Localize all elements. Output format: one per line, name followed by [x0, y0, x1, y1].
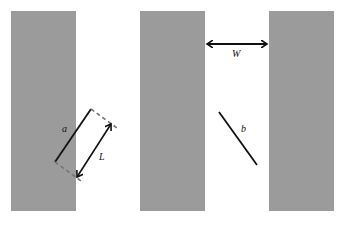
label-a: a [62, 123, 67, 134]
label-L: L [98, 151, 105, 162]
segment-b [219, 112, 257, 165]
middle-strip [140, 11, 205, 211]
label-W: W [232, 48, 242, 59]
dashed-extension-top [91, 109, 117, 128]
right-strip [269, 11, 334, 211]
length-arrow-L [77, 124, 111, 177]
diagram-canvas: a L W b [0, 0, 344, 225]
label-b: b [241, 123, 246, 134]
left-strip [11, 11, 76, 211]
